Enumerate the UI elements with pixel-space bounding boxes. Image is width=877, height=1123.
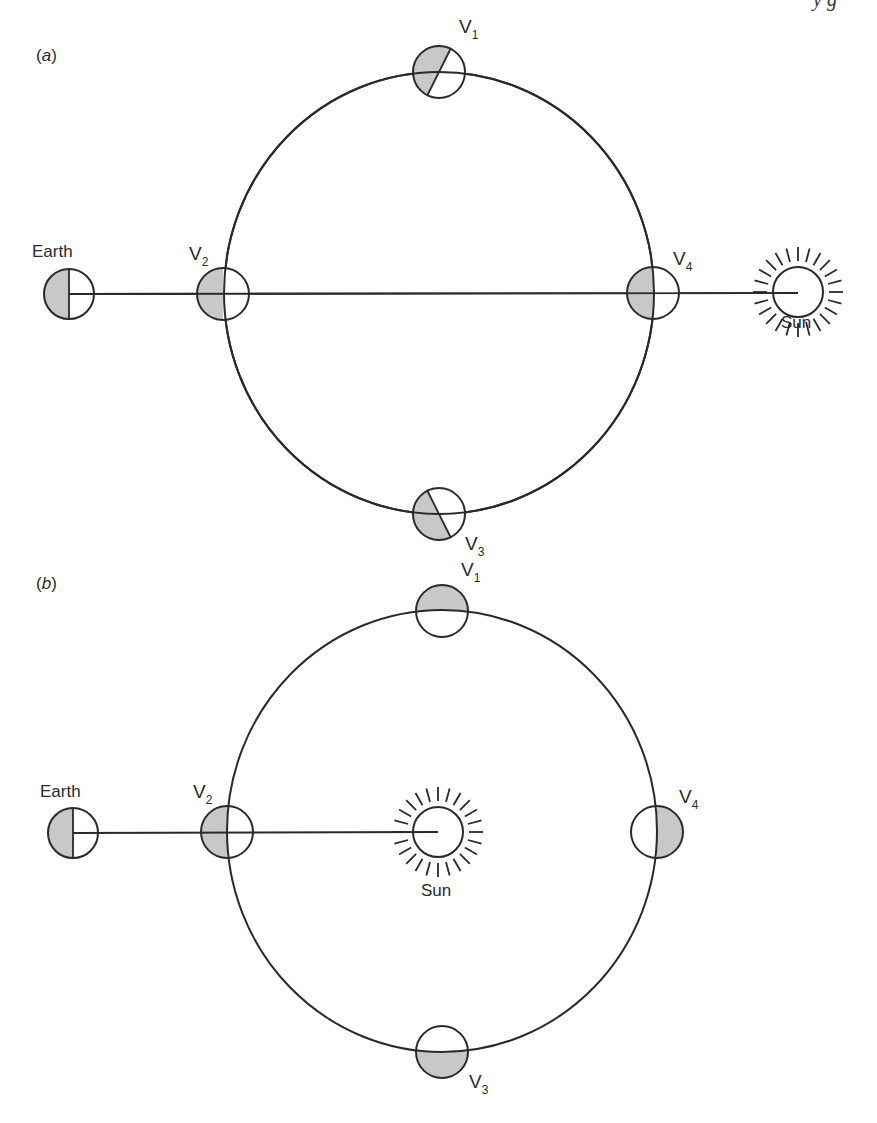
panel-a-label: (a) xyxy=(36,46,57,65)
venus-v4-a-label: V4 xyxy=(673,248,693,274)
venus-phases-diagram: (a) Earth V1 V2 xyxy=(0,0,877,1123)
venus-v4-b-label: V4 xyxy=(679,786,699,812)
sun-label-b: Sun xyxy=(421,881,451,900)
panel-b: (b) Earth V1 V2 V3 xyxy=(36,559,699,1097)
venus-v1-b-label: V1 xyxy=(461,559,481,585)
venus-v3-a-label: V3 xyxy=(465,533,485,559)
panel-b-label: (b) xyxy=(36,574,57,593)
venus-v3-b-label: V3 xyxy=(469,1071,489,1097)
sightline-b xyxy=(73,832,438,833)
earth-label-a: Earth xyxy=(32,242,73,261)
sun-label-a: Sun xyxy=(781,313,811,332)
venus-v2-b-label: V2 xyxy=(193,781,213,807)
panel-a: (a) Earth V1 V2 xyxy=(32,16,843,559)
earth-label-b: Earth xyxy=(40,782,81,801)
venus-v1-a-label: V1 xyxy=(459,16,479,42)
venus-orbit-b xyxy=(227,610,657,1052)
sightline-a-overlay xyxy=(69,293,798,294)
venus-v2-a-label: V2 xyxy=(189,243,209,269)
